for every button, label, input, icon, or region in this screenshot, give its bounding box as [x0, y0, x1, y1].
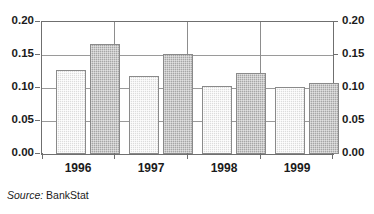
left-axis-tick-1: 0.15 — [12, 48, 34, 59]
left-axis-labels: 0.20 0.15 0.10 0.05 0.00 — [0, 0, 36, 214]
left-tickmark-4 — [35, 153, 40, 154]
right-axis-tick-0: 0.20 — [342, 15, 364, 26]
left-axis-tick-3: 0.05 — [12, 114, 34, 125]
bar-1998-series-2 — [236, 73, 266, 154]
xtick-start — [42, 153, 43, 159]
right-axis-tick-3: 0.05 — [342, 114, 364, 125]
right-axis-tick-4: 0.00 — [342, 147, 364, 158]
left-tickmark-3 — [35, 120, 40, 121]
bar-1996-series-1 — [56, 70, 86, 155]
xtick-end — [332, 153, 333, 159]
xtick-2 — [187, 153, 188, 159]
category-label-1999: 1999 — [261, 161, 333, 175]
xtick-1 — [114, 153, 115, 159]
bar-1999-series-1 — [275, 87, 305, 154]
right-axis-labels: 0.20 0.15 0.10 0.05 0.00 — [338, 0, 374, 214]
bar-chart-figure: 0.20 0.15 0.10 0.05 0.00 0.20 0.15 0.10 … — [0, 0, 374, 214]
bar-1998-series-1 — [202, 86, 232, 154]
category-label-1997: 1997 — [115, 161, 187, 175]
left-axis-tick-4: 0.00 — [12, 147, 34, 158]
source-note: Source: BankStat — [7, 189, 89, 201]
left-tickmark-2 — [35, 87, 40, 88]
source-label: Source: — [7, 189, 43, 201]
plot-area — [41, 21, 334, 155]
bar-1997-series-1 — [129, 76, 159, 154]
left-tickmark-0 — [35, 21, 40, 22]
left-tickmark-1 — [35, 54, 40, 55]
right-axis-tick-2: 0.10 — [342, 81, 364, 92]
xtick-3 — [260, 153, 261, 159]
bar-1996-series-2 — [90, 44, 120, 154]
source-value: BankStat — [43, 189, 89, 201]
left-axis-tick-2: 0.10 — [12, 81, 34, 92]
bar-1997-series-2 — [163, 54, 193, 154]
left-axis-tick-0: 0.20 — [12, 15, 34, 26]
category-label-1998: 1998 — [188, 161, 260, 175]
right-axis-tick-1: 0.15 — [342, 48, 364, 59]
category-label-1996: 1996 — [42, 161, 114, 175]
bar-1999-series-2 — [309, 83, 339, 154]
